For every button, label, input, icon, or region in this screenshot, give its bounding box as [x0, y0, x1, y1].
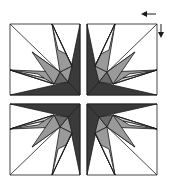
left-arrow-icon: [141, 11, 156, 17]
quilt-diagram: [0, 0, 172, 182]
quadrant-top-right: [87, 24, 157, 95]
quadrant-top-left: [10, 24, 80, 95]
quadrant-bottom-left: [10, 104, 80, 175]
quadrant-bottom-right: [87, 104, 157, 175]
down-arrow-icon: [158, 24, 164, 38]
